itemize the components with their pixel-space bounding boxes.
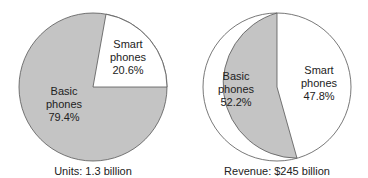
revenue-caption: Revenue: $245 billion (224, 165, 330, 177)
smart-pct: 20.6% (112, 64, 143, 76)
smart-label: phones (301, 77, 338, 89)
basic-pct: 52.2% (220, 96, 251, 108)
basic-label: phones (218, 83, 255, 95)
basic-pct: 79.4% (48, 111, 79, 123)
smart-label: Smart (304, 64, 333, 76)
basic-label: phones (46, 98, 83, 110)
units-pie: Smart phones 20.6% Basic phones 79.4% Un… (19, 13, 167, 177)
basic-label: Basic (51, 85, 78, 97)
pie-charts: Smart phones 20.6% Basic phones 79.4% Un… (0, 0, 368, 178)
smart-label: phones (110, 51, 147, 63)
basic-label: Basic (223, 70, 250, 82)
revenue-pie: Smart phones 47.8% Basic phones 52.2% Re… (203, 13, 351, 177)
smart-label: Smart (113, 38, 142, 50)
units-caption: Units: 1.3 billion (54, 165, 132, 177)
smart-pct: 47.8% (303, 90, 334, 102)
